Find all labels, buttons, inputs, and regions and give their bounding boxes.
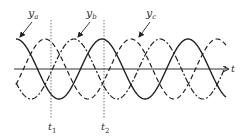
three-phase-wave-diagram: t1t2 t yaybyc bbox=[0, 0, 240, 138]
time-axis-label: t bbox=[231, 63, 236, 74]
time-markers: t1t2 bbox=[48, 20, 110, 135]
leader-arrow-y-a bbox=[20, 22, 32, 37]
wave-plot: t1t2 t yaybyc bbox=[0, 0, 240, 138]
label-y-b: yb bbox=[85, 7, 97, 21]
marker-label-t2: t2 bbox=[101, 121, 110, 135]
wave-labels: yaybyc bbox=[20, 7, 156, 37]
leader-arrow-y-c bbox=[139, 22, 150, 37]
leader-arrow-y-b bbox=[78, 22, 90, 37]
label-y-a: ya bbox=[27, 7, 38, 21]
label-y-c: yc bbox=[145, 7, 156, 21]
marker-label-t1: t1 bbox=[48, 121, 57, 135]
